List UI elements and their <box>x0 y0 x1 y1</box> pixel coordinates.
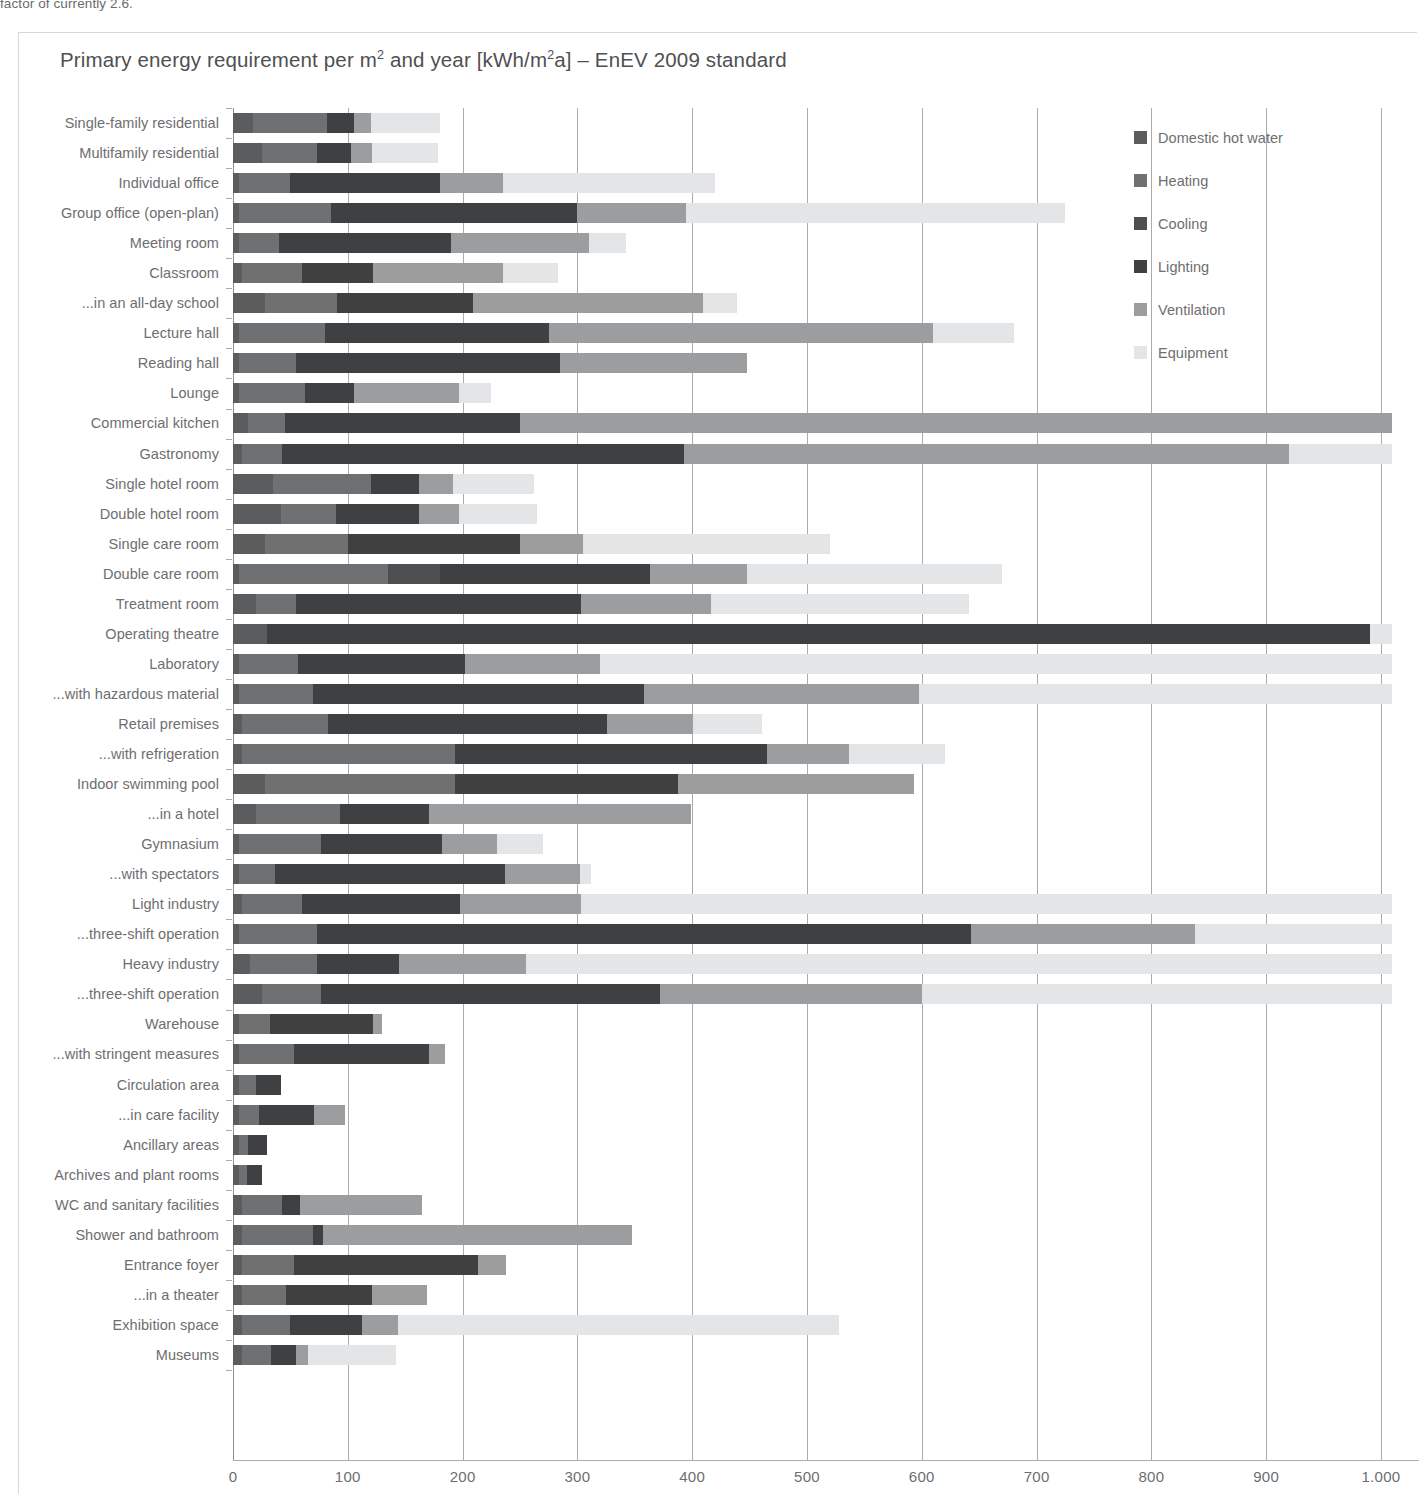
bar-row[interactable] <box>233 1340 1381 1370</box>
bar-segment-heating[interactable] <box>242 1315 290 1335</box>
stacked-bar[interactable] <box>233 654 1392 674</box>
stacked-bar[interactable] <box>233 323 1014 343</box>
bar-segment-ventilation[interactable] <box>581 594 711 614</box>
bar-segment-heating[interactable] <box>239 1105 260 1125</box>
bar-segment-lighting[interactable] <box>248 1135 268 1155</box>
bar-row[interactable] <box>233 1039 1381 1069</box>
bar-segment-equipment[interactable] <box>308 1345 396 1365</box>
bar-segment-ventilation[interactable] <box>373 263 503 283</box>
legend-item-equipment[interactable]: Equipment <box>1134 331 1404 374</box>
bar-segment-lighting[interactable] <box>271 1345 296 1365</box>
bar-segment-lighting[interactable] <box>259 1105 314 1125</box>
bar-segment-heating[interactable] <box>242 1255 294 1275</box>
bar-segment-heating[interactable] <box>242 1225 313 1245</box>
legend-item-ventilation[interactable]: Ventilation <box>1134 288 1404 331</box>
bar-segment-heating[interactable] <box>242 1345 271 1365</box>
bar-segment-lighting[interactable] <box>286 1285 372 1305</box>
bar-segment-lighting[interactable] <box>296 594 581 614</box>
bar-row[interactable] <box>233 439 1381 469</box>
bar-segment-cooling[interactable] <box>388 564 440 584</box>
bar-segment-lighting[interactable] <box>294 1255 478 1275</box>
stacked-bar[interactable] <box>233 383 491 403</box>
bar-segment-lighting[interactable] <box>321 984 660 1004</box>
stacked-bar[interactable] <box>233 864 591 884</box>
bar-row[interactable] <box>233 979 1381 1009</box>
bar-segment-ventilation[interactable] <box>354 113 371 133</box>
stacked-bar[interactable] <box>233 1195 422 1215</box>
stacked-bar[interactable] <box>233 413 1392 433</box>
bar-segment-heating[interactable] <box>239 654 299 674</box>
stacked-bar[interactable] <box>233 954 1392 974</box>
stacked-bar[interactable] <box>233 143 438 163</box>
bar-segment-domestic-hot-water[interactable] <box>233 894 242 914</box>
bar-row[interactable] <box>233 949 1381 979</box>
bar-segment-domestic-hot-water[interactable] <box>233 1315 242 1335</box>
bar-segment-heating[interactable] <box>239 564 388 584</box>
bar-segment-lighting[interactable] <box>328 714 607 734</box>
bar-segment-domestic-hot-water[interactable] <box>233 744 242 764</box>
bar-segment-heating[interactable] <box>281 504 336 524</box>
bar-row[interactable] <box>233 529 1381 559</box>
bar-segment-heating[interactable] <box>250 954 317 974</box>
stacked-bar[interactable] <box>233 263 558 283</box>
bar-segment-equipment[interactable] <box>453 474 533 494</box>
bar-segment-equipment[interactable] <box>600 654 1392 674</box>
bar-segment-domestic-hot-water[interactable] <box>233 984 262 1004</box>
bar-segment-ventilation[interactable] <box>607 714 693 734</box>
bar-segment-ventilation[interactable] <box>300 1195 423 1215</box>
bar-segment-equipment[interactable] <box>693 714 762 734</box>
bar-segment-heating[interactable] <box>253 113 328 133</box>
bar-segment-domestic-hot-water[interactable] <box>233 1255 242 1275</box>
stacked-bar[interactable] <box>233 1255 506 1275</box>
bar-segment-ventilation[interactable] <box>351 143 372 163</box>
bar-segment-ventilation[interactable] <box>440 173 503 193</box>
bar-segment-domestic-hot-water[interactable] <box>233 263 242 283</box>
bar-row[interactable] <box>233 1220 1381 1250</box>
bar-row[interactable] <box>233 378 1381 408</box>
bar-row[interactable] <box>233 1250 1381 1280</box>
stacked-bar[interactable] <box>233 113 440 133</box>
bar-segment-ventilation[interactable] <box>419 474 453 494</box>
bar-segment-domestic-hot-water[interactable] <box>233 413 248 433</box>
bar-segment-lighting[interactable] <box>371 474 419 494</box>
bar-segment-ventilation[interactable] <box>314 1105 345 1125</box>
bar-segment-domestic-hot-water[interactable] <box>233 714 242 734</box>
bar-segment-equipment[interactable] <box>933 323 1013 343</box>
bar-segment-domestic-hot-water[interactable] <box>233 624 267 644</box>
bar-segment-equipment[interactable] <box>526 954 1393 974</box>
stacked-bar[interactable] <box>233 714 762 734</box>
bar-segment-equipment[interactable] <box>583 534 830 554</box>
bar-segment-lighting[interactable] <box>313 1225 322 1245</box>
bar-row[interactable] <box>233 1160 1381 1190</box>
stacked-bar[interactable] <box>233 1165 262 1185</box>
bar-segment-equipment[interactable] <box>919 684 1392 704</box>
bar-segment-lighting[interactable] <box>256 1075 281 1095</box>
bar-segment-lighting[interactable] <box>455 774 679 794</box>
bar-row[interactable] <box>233 559 1381 589</box>
bar-segment-heating[interactable] <box>239 233 279 253</box>
bar-segment-heating[interactable] <box>239 173 291 193</box>
bar-segment-heating[interactable] <box>248 413 285 433</box>
bar-segment-ventilation[interactable] <box>644 684 920 704</box>
bar-segment-heating[interactable] <box>265 774 454 794</box>
stacked-bar[interactable] <box>233 173 715 193</box>
bar-row[interactable] <box>233 1130 1381 1160</box>
bar-segment-equipment[interactable] <box>398 1315 839 1335</box>
bar-segment-lighting[interactable] <box>317 143 351 163</box>
stacked-bar[interactable] <box>233 1044 445 1064</box>
bar-segment-equipment[interactable] <box>747 564 1002 584</box>
legend-item-heating[interactable]: Heating <box>1134 159 1404 202</box>
bar-row[interactable] <box>233 1280 1381 1310</box>
bar-segment-lighting[interactable] <box>331 203 578 223</box>
stacked-bar[interactable] <box>233 293 737 313</box>
bar-segment-lighting[interactable] <box>340 804 430 824</box>
bar-segment-heating[interactable] <box>239 203 331 223</box>
bar-segment-lighting[interactable] <box>294 1044 429 1064</box>
bar-row[interactable] <box>233 769 1381 799</box>
bar-segment-heating[interactable] <box>242 894 302 914</box>
bar-segment-domestic-hot-water[interactable] <box>233 954 250 974</box>
bar-segment-domestic-hot-water[interactable] <box>233 1285 242 1305</box>
bar-row[interactable] <box>233 589 1381 619</box>
bar-segment-heating[interactable] <box>265 534 348 554</box>
bar-segment-equipment[interactable] <box>922 984 1393 1004</box>
